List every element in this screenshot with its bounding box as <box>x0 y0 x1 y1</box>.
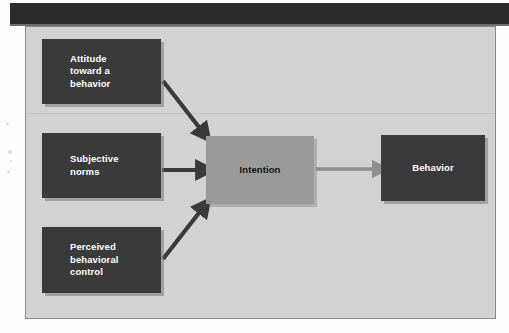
node-behavior-label: Behavior <box>412 162 453 175</box>
node-attitude[interactable]: Attitude toward a behavior <box>42 39 161 104</box>
header-bar <box>10 3 509 24</box>
node-perceived-behavioral-control[interactable]: Perceived behavioral control <box>42 227 161 293</box>
node-intention[interactable]: Intention <box>206 136 314 204</box>
scan-speckle <box>10 160 12 162</box>
node-perceived-behavioral-control-label: Perceived behavioral control <box>70 241 119 279</box>
diagram-panel: Attitude toward a behavior Subjective no… <box>25 26 496 319</box>
node-intention-label: Intention <box>239 164 280 177</box>
node-behavior[interactable]: Behavior <box>381 135 485 201</box>
scan-speckle <box>7 170 10 173</box>
scan-speckle <box>6 122 9 125</box>
arrow-perceived-control-to-intention <box>163 209 202 259</box>
node-attitude-label: Attitude toward a behavior <box>70 53 110 91</box>
scan-fold-line <box>26 113 495 114</box>
node-subjective-norms-label: Subjective norms <box>70 153 119 178</box>
arrow-attitude-to-intention <box>163 81 202 131</box>
page-canvas: Attitude toward a behavior Subjective no… <box>0 0 509 333</box>
scan-speckle <box>8 150 12 154</box>
node-subjective-norms[interactable]: Subjective norms <box>42 133 161 198</box>
